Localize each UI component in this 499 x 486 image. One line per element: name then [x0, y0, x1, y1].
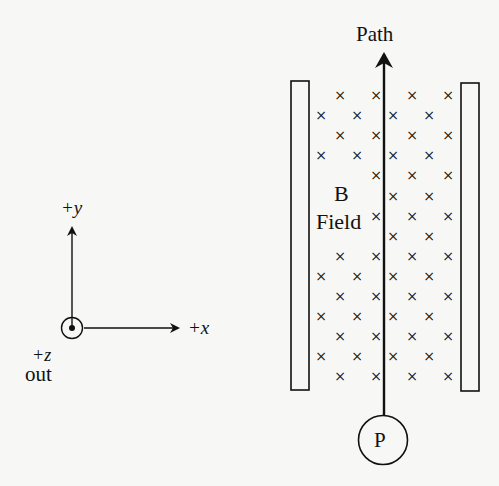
left-plate — [291, 81, 309, 390]
field-cross-icon: × — [370, 369, 382, 383]
field-cross-icon: × — [387, 269, 399, 283]
field-cross-icon: × — [423, 269, 435, 283]
field-cross-icon: × — [442, 369, 454, 383]
field-cross-icon: × — [351, 148, 363, 162]
field-cross-icon: × — [423, 189, 435, 203]
field-cross-icon: × — [406, 168, 418, 182]
field-cross-icon: × — [370, 289, 382, 303]
b-field-label-field: Field — [314, 211, 363, 233]
particle-label: P — [374, 430, 386, 451]
field-cross-icon: × — [406, 329, 418, 343]
field-cross-icon: × — [351, 269, 363, 283]
field-cross-icon: × — [442, 289, 454, 303]
field-cross-icon: × — [370, 329, 382, 343]
field-cross-icon: × — [370, 168, 382, 182]
field-cross-icon: × — [406, 249, 418, 263]
field-cross-icon: × — [442, 209, 454, 223]
field-cross-icon: × — [334, 289, 346, 303]
right-plate — [461, 83, 479, 391]
field-cross-icon: × — [406, 369, 418, 383]
field-cross-icon: × — [315, 269, 327, 283]
field-cross-icon: × — [370, 128, 382, 142]
field-cross-icon: × — [406, 88, 418, 102]
field-cross-icon: × — [387, 189, 399, 203]
field-cross-icon: × — [370, 209, 382, 223]
field-cross-icon: × — [334, 249, 346, 263]
field-cross-icon: × — [351, 309, 363, 323]
field-cross-icon: × — [406, 209, 418, 223]
field-cross-icon: × — [315, 148, 327, 162]
field-cross-icon: × — [423, 229, 435, 243]
field-cross-icon: × — [387, 108, 399, 122]
field-cross-icon: × — [315, 108, 327, 122]
field-cross-icon: × — [387, 349, 399, 363]
field-cross-icon: × — [442, 329, 454, 343]
field-cross-icon: × — [370, 249, 382, 263]
field-cross-icon: × — [423, 309, 435, 323]
field-cross-icon: × — [387, 229, 399, 243]
field-cross-icon: × — [387, 309, 399, 323]
b-field-label-b: B — [331, 183, 352, 205]
field-cross-icon: × — [334, 369, 346, 383]
field-cross-icon: × — [406, 128, 418, 142]
z-axis-dot — [69, 325, 75, 331]
field-cross-icon: × — [315, 349, 327, 363]
field-cross-icon: × — [334, 329, 346, 343]
field-cross-icon: × — [351, 349, 363, 363]
path-label: Path — [356, 24, 393, 45]
field-cross-icon: × — [351, 108, 363, 122]
field-cross-icon: × — [423, 148, 435, 162]
y-axis-label: +y — [61, 198, 82, 217]
field-cross-icon: × — [370, 88, 382, 102]
field-cross-icon: × — [423, 349, 435, 363]
field-cross-icon: × — [387, 148, 399, 162]
field-cross-icon: × — [442, 249, 454, 263]
field-cross-icon: × — [423, 108, 435, 122]
field-cross-icon: × — [334, 88, 346, 102]
z-axis-direction-label: out — [25, 364, 52, 385]
field-cross-icon: × — [315, 309, 327, 323]
field-cross-icon: × — [442, 168, 454, 182]
x-axis-label: +x — [188, 318, 209, 337]
field-cross-icon: × — [406, 289, 418, 303]
field-cross-icon: × — [442, 88, 454, 102]
field-cross-icon: × — [442, 128, 454, 142]
field-cross-icon: × — [334, 128, 346, 142]
